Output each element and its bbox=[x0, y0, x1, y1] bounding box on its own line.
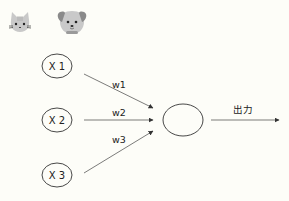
input-node-x3: X 3 bbox=[42, 163, 72, 187]
weight-label-w2: w2 bbox=[112, 107, 126, 118]
input-label-x1: X 1 bbox=[49, 61, 65, 72]
dog-face-icon bbox=[58, 11, 87, 34]
output-node bbox=[163, 104, 203, 136]
input-node-x2: X 2 bbox=[42, 108, 72, 132]
weight-label-w3: w3 bbox=[112, 134, 126, 145]
input-label-x2: X 2 bbox=[49, 115, 65, 126]
input-label-x3: X 3 bbox=[49, 170, 65, 181]
weight-label-w1: w1 bbox=[112, 79, 126, 90]
cat-face-icon bbox=[9, 12, 31, 32]
neural-network-diagram: X 1 X 2 X 3 w1 w2 w3 出力 bbox=[0, 0, 289, 201]
output-label: 出力 bbox=[233, 104, 253, 115]
input-node-x1: X 1 bbox=[42, 54, 72, 78]
